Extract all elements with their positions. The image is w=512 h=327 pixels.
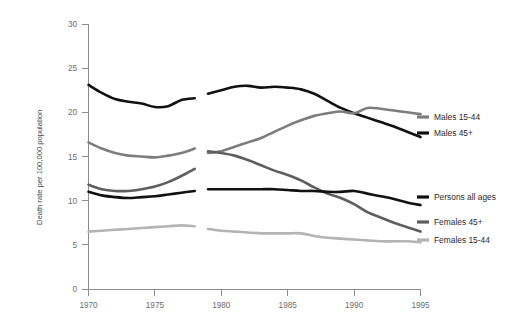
chart-legend: Males 15-44Males 45+Persons all agesFema… [417, 112, 496, 245]
series-line [208, 108, 420, 153]
y-axis-ticks: 051015202530 [68, 20, 89, 294]
y-tick-label: 0 [72, 285, 77, 294]
series-line [89, 225, 195, 231]
x-tick-label: 1990 [345, 301, 364, 310]
legend-label: Males 15-44 [434, 112, 480, 122]
y-axis-title: Death rate per 100,000 population [35, 110, 44, 225]
y-tick-label: 15 [68, 153, 78, 162]
series-line [208, 86, 420, 137]
x-tick-label: 1980 [212, 301, 231, 310]
y-tick-label: 10 [68, 197, 78, 206]
y-tick-label: 20 [68, 108, 78, 117]
legend-label: Females 15-44 [434, 235, 490, 245]
y-tick-label: 25 [68, 64, 78, 73]
line-chart-figure: 051015202530 197019751980198519901995 Ma… [0, 0, 512, 327]
series-line [208, 189, 420, 205]
legend-label: Males 45+ [434, 128, 473, 138]
legend-label: Persons all ages [434, 192, 496, 202]
series-line [89, 169, 195, 191]
x-tick-label: 1995 [411, 301, 430, 310]
data-series-group [89, 85, 421, 242]
series-line [208, 229, 420, 242]
y-tick-label: 30 [68, 20, 78, 29]
y-tick-label: 5 [72, 241, 77, 250]
x-tick-label: 1970 [79, 301, 98, 310]
x-axis-ticks: 197019751980198519901995 [79, 290, 430, 311]
x-tick-label: 1985 [279, 301, 298, 310]
series-line [89, 142, 195, 157]
legend-label: Females 45+ [434, 217, 483, 227]
series-line [89, 191, 195, 198]
x-tick-label: 1975 [146, 301, 165, 310]
series-line [89, 85, 195, 107]
chart-canvas: 051015202530 197019751980198519901995 Ma… [0, 0, 512, 327]
